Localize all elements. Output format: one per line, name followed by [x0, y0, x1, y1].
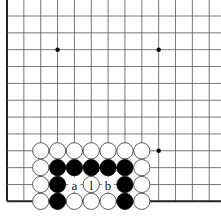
star-point — [156, 149, 160, 153]
stone-label: l — [89, 178, 93, 193]
white-stone[interactable] — [66, 193, 82, 209]
black-stone[interactable] — [117, 176, 133, 192]
go-board[interactable]: lab — [0, 0, 221, 224]
black-stone[interactable] — [49, 193, 65, 209]
point-label-b: b — [105, 178, 112, 193]
white-stone[interactable] — [100, 193, 116, 209]
black-stone[interactable] — [100, 160, 116, 176]
white-stone[interactable] — [66, 143, 82, 159]
white-stone[interactable] — [134, 193, 150, 209]
labels-layer: lab — [68, 178, 114, 193]
white-stone[interactable] — [134, 160, 150, 176]
black-stone[interactable] — [66, 160, 82, 176]
white-stone[interactable] — [33, 160, 49, 176]
star-point — [156, 48, 160, 52]
black-stone[interactable] — [49, 160, 65, 176]
white-stone[interactable] — [117, 143, 133, 159]
white-stone[interactable] — [33, 143, 49, 159]
star-point — [55, 48, 59, 52]
white-stone[interactable] — [134, 176, 150, 192]
black-stone[interactable] — [117, 193, 133, 209]
black-stone[interactable] — [49, 176, 65, 192]
white-stone[interactable] — [49, 143, 65, 159]
white-stone[interactable] — [33, 176, 49, 192]
white-stone[interactable] — [33, 193, 49, 209]
stones-layer — [33, 143, 150, 210]
point-label-a: a — [72, 178, 78, 193]
white-stone[interactable] — [134, 143, 150, 159]
black-stone[interactable] — [83, 160, 99, 176]
black-stone[interactable] — [117, 160, 133, 176]
white-stone[interactable] — [83, 193, 99, 209]
white-stone[interactable] — [83, 143, 99, 159]
white-stone[interactable] — [100, 143, 116, 159]
